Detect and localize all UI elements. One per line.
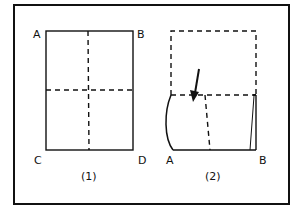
curled-left-edge xyxy=(166,95,173,150)
corner-label-d: D xyxy=(138,154,146,167)
outer-frame xyxy=(14,5,289,204)
corner-label-a: A xyxy=(33,28,41,41)
corner-label-a: A xyxy=(166,154,174,167)
original-position-outline xyxy=(171,31,256,95)
corner-label-b: B xyxy=(137,28,145,41)
folded-flap-edge xyxy=(250,96,254,150)
panel-2: A B (2) xyxy=(166,31,267,183)
vertical-fold-line xyxy=(205,95,210,150)
step-caption-2: (2) xyxy=(205,170,221,183)
folding-diagram: A B C D (1) A B (2) xyxy=(0,0,302,214)
step-caption-1: (1) xyxy=(81,170,97,183)
panel-1: A B C D (1) xyxy=(33,28,146,183)
vertical-fold-line xyxy=(88,31,89,150)
corner-label-c: C xyxy=(34,154,42,167)
corner-label-b: B xyxy=(259,154,267,167)
fold-direction-arrow-icon xyxy=(190,69,199,102)
